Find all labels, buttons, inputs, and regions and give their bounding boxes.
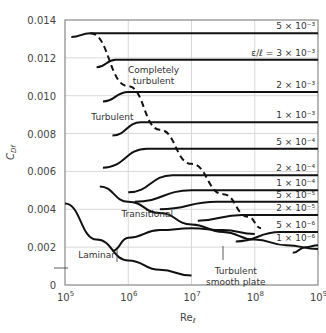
y-tick-label: 0.014 (27, 15, 56, 26)
annotation-text: Turbulent (90, 112, 134, 122)
curve-labels: 5 × 10⁻³ε/ℓ = 3 × 10⁻³2 × 10⁻³1 × 10⁻³5 … (251, 21, 315, 243)
roughness-label: 2 × 10⁻³ (276, 80, 315, 90)
roughness-label: 5 × 10⁻³ (276, 21, 315, 31)
y-tick-label: 0.012 (27, 53, 56, 64)
roughness-label: 2 × 10⁻⁴ (276, 163, 315, 173)
roughness-label: ε/ℓ = 3 × 10⁻³ (251, 48, 315, 58)
curve-line (71, 33, 318, 37)
curve-line (90, 33, 261, 228)
y-tick-label: 0.002 (27, 242, 56, 253)
annotation-text: turbulent (133, 76, 175, 86)
y-axis-label: CDf (5, 144, 18, 160)
roughness-label: 1 × 10⁻⁴ (276, 178, 315, 188)
x-axis-ticks: 105106107108109 (57, 290, 326, 303)
roughness-label: 5 × 10⁻⁵ (276, 190, 315, 200)
skin-friction-chart: 00.0020.0040.0060.0080.0100.0120.014 105… (0, 0, 326, 333)
x-axis-label: Reℓ (180, 312, 196, 325)
x-tick-label: 105 (57, 290, 74, 303)
x-tick-label: 108 (247, 290, 264, 303)
y-tick-label: 0.010 (27, 91, 56, 102)
roughness-label: 5 × 10⁻⁴ (276, 137, 315, 147)
annotation-text: Laminar (78, 250, 115, 260)
roughness-label: 2 × 10⁻⁵ (276, 203, 315, 213)
roughness-label: 1 × 10⁻⁶ (276, 233, 315, 243)
annotation-text: Completely (128, 65, 180, 75)
x-tick-label: 106 (120, 290, 138, 303)
y-axis-ticks: 00.0020.0040.0060.0080.0100.0120.014 (27, 15, 56, 291)
y-tick-label: 0 (50, 280, 56, 291)
y-tick-label: 0.006 (27, 166, 56, 177)
annotation-text: Transitional (120, 209, 173, 219)
roughness-label: 5 × 10⁻⁶ (276, 220, 315, 230)
y-tick-label: 0.004 (27, 204, 56, 215)
annotation-text: Turbulent (214, 266, 258, 276)
y-tick-label: 0.008 (27, 129, 56, 140)
roughness-label: 1 × 10⁻³ (276, 110, 315, 120)
curve-line (103, 92, 318, 101)
annotation-text: smooth plate (206, 277, 266, 287)
x-tick-label: 109 (310, 290, 326, 303)
x-tick-label: 107 (184, 290, 201, 303)
